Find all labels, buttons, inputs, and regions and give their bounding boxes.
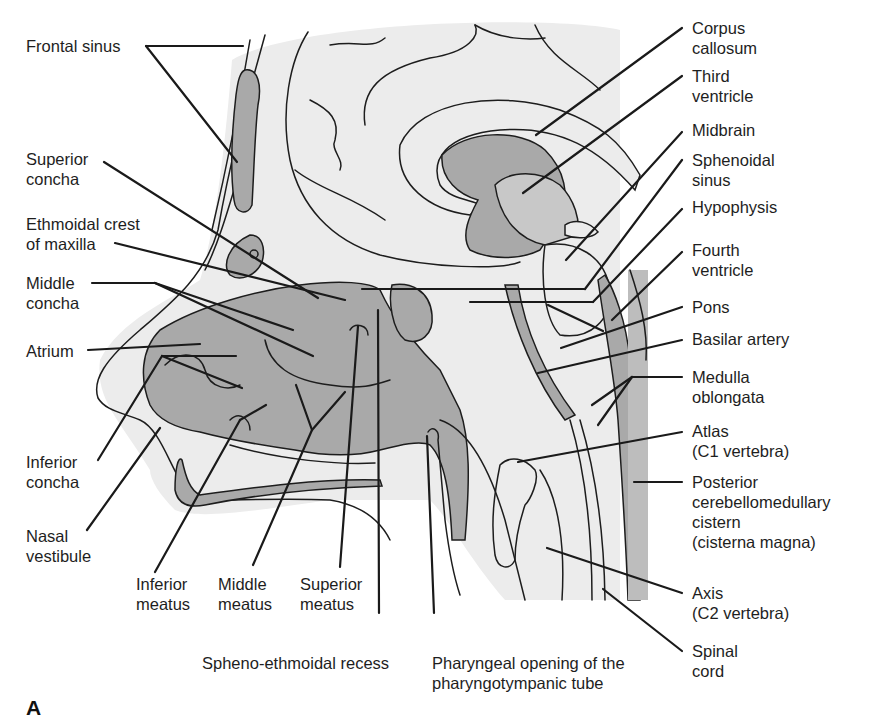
label-medulla-oblongata: Medulla oblongata <box>692 367 765 407</box>
label-superior-concha: Superior concha <box>26 149 88 189</box>
label-spinal-cord: Spinal cord <box>692 641 738 681</box>
sagittal-head-diagram: Frontal sinus Superior concha Ethmoidal … <box>0 0 871 721</box>
label-nasal-vestibule: Nasal vestibule <box>26 526 91 566</box>
label-basilar-artery: Basilar artery <box>692 329 789 349</box>
label-pons: Pons <box>692 297 730 317</box>
label-atrium: Atrium <box>26 341 74 361</box>
label-axis: Axis (C2 vertebra) <box>692 583 789 623</box>
label-fourth-ventricle: Fourth ventricle <box>692 240 753 280</box>
label-pharyngeal-opening: Pharyngeal opening of the pharyngotympan… <box>432 653 625 693</box>
label-third-ventricle: Third ventricle <box>692 66 753 106</box>
label-midbrain: Midbrain <box>692 120 755 140</box>
label-sphenoidal-sinus: Sphenoidal sinus <box>692 150 775 190</box>
label-spheno-ethmoidal-recess: Spheno-ethmoidal recess <box>202 653 389 673</box>
label-middle-meatus: Middle meatus <box>218 574 272 614</box>
label-inferior-meatus: Inferior meatus <box>136 574 190 614</box>
label-corpus-callosum: Corpus callosum <box>692 18 757 58</box>
label-atlas: Atlas (C1 vertebra) <box>692 421 789 461</box>
label-posterior-cistern: Posterior cerebellomedullary cistern (ci… <box>692 472 831 552</box>
label-ethmoidal-crest: Ethmoidal crest of maxilla <box>26 214 140 254</box>
label-hypophysis: Hypophysis <box>692 197 777 217</box>
label-frontal-sinus: Frontal sinus <box>26 36 120 56</box>
label-inferior-concha: Inferior concha <box>26 452 79 492</box>
label-superior-meatus: Superior meatus <box>300 574 362 614</box>
panel-letter: A <box>26 696 41 720</box>
label-middle-concha: Middle concha <box>26 273 79 313</box>
